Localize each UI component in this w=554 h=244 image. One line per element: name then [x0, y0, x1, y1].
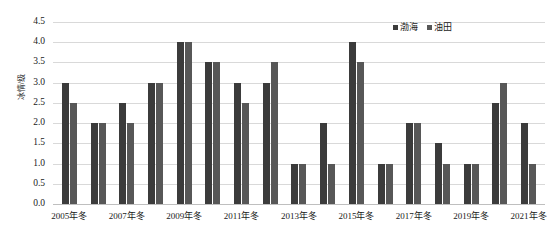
bar	[99, 123, 106, 204]
x-axis-tick-label: 2011年冬	[224, 211, 260, 222]
y-axis-tick-label: 2.5	[33, 98, 45, 108]
bar	[472, 164, 479, 204]
bar	[406, 123, 413, 204]
bar	[271, 62, 278, 204]
y-axis-tick-label: 0.5	[33, 179, 45, 189]
bar	[492, 103, 499, 204]
y-axis-tick-label: 1.5	[33, 139, 45, 149]
bar-group	[55, 22, 84, 204]
bar	[205, 62, 212, 204]
y-axis-tick-labels: 0.00.51.01.52.02.53.03.54.04.5	[0, 22, 49, 204]
legend-entry[interactable]: 渤海	[393, 23, 418, 32]
bar-group	[399, 22, 428, 204]
bar-group	[199, 22, 228, 204]
bar	[70, 103, 77, 204]
x-axis-tick-slot: 2007年冬	[112, 208, 141, 232]
bar	[148, 83, 155, 204]
bar-group	[170, 22, 199, 204]
y-axis-tick-label: 4.0	[33, 37, 45, 47]
x-axis-tick-slot: 2009年冬	[170, 208, 199, 232]
legend-swatch-icon	[393, 25, 398, 30]
bar-group	[141, 22, 170, 204]
bar	[464, 164, 471, 204]
x-axis-tick-slot: 2005年冬	[55, 208, 84, 232]
y-axis-tick-label: 4.5	[33, 17, 45, 27]
bar	[242, 103, 249, 204]
plot-area	[53, 22, 545, 204]
bar	[213, 62, 220, 204]
bar	[529, 164, 536, 204]
bars-layer	[53, 22, 545, 204]
bar-group	[84, 22, 113, 204]
bar	[291, 164, 298, 204]
bar-group	[112, 22, 141, 204]
bar	[320, 123, 327, 204]
x-axis-tick-slot: 2011年冬	[227, 208, 256, 232]
x-axis-tick-label: 2017年冬	[396, 211, 432, 222]
x-axis-tick-slot: 2013年冬	[285, 208, 314, 232]
bar	[357, 62, 364, 204]
bar	[234, 83, 241, 204]
y-axis-tick-label: 1.0	[33, 159, 45, 169]
bar	[386, 164, 393, 204]
bar	[156, 83, 163, 204]
bar	[127, 123, 134, 204]
bar	[177, 42, 184, 204]
legend-entry[interactable]: 油田	[427, 23, 452, 32]
x-axis-tick-slot: 2017年冬	[399, 208, 428, 232]
bar	[185, 42, 192, 204]
gridline	[53, 204, 545, 205]
chart-legend: 渤海油田	[393, 23, 452, 32]
bar	[414, 123, 421, 204]
x-axis-tick-label: 2009年冬	[166, 211, 202, 222]
bar	[521, 123, 528, 204]
bar-group	[371, 22, 400, 204]
x-axis-tick-label: 2013年冬	[281, 211, 317, 222]
legend-swatch-icon	[427, 25, 432, 30]
bar	[378, 164, 385, 204]
bar	[349, 42, 356, 204]
bar-group	[457, 22, 486, 204]
bar-group	[342, 22, 371, 204]
bar	[91, 123, 98, 204]
bar	[263, 83, 270, 204]
x-axis-tick-slot: 2019年冬	[457, 208, 486, 232]
bar	[443, 164, 450, 204]
bar	[328, 164, 335, 204]
bar-group	[227, 22, 256, 204]
bar-group	[486, 22, 515, 204]
y-axis-tick-label: 3.5	[33, 58, 45, 68]
x-axis-tick-label: 2005年冬	[51, 211, 87, 222]
chart-container: 冰情/级 0.00.51.01.52.02.53.03.54.04.5 2005…	[0, 0, 554, 244]
bar	[435, 143, 442, 204]
x-axis-tick-label: 2019年冬	[453, 211, 489, 222]
y-axis-tick-label: 3.0	[33, 78, 45, 88]
x-axis-tick-label: 2021年冬	[511, 211, 547, 222]
bar	[62, 83, 69, 204]
y-axis-tick-label: 0.0	[33, 199, 45, 209]
bar-group	[514, 22, 543, 204]
bar-group	[313, 22, 342, 204]
y-axis-tick-label: 2.0	[33, 118, 45, 128]
bar-group	[428, 22, 457, 204]
x-axis-tick-slot: 2021年冬	[514, 208, 543, 232]
x-axis-tick-label: 2007年冬	[109, 211, 145, 222]
legend-label: 渤海	[400, 23, 418, 32]
bar	[119, 103, 126, 204]
x-axis-tick-labels: 2005年冬2007年冬2009年冬2011年冬2013年冬2015年冬2017…	[53, 208, 545, 232]
x-axis-tick-label: 2015年冬	[338, 211, 374, 222]
x-axis-tick-slot: 2015年冬	[342, 208, 371, 232]
bar-group	[256, 22, 285, 204]
bar-group	[285, 22, 314, 204]
legend-label: 油田	[434, 23, 452, 32]
bar	[500, 83, 507, 204]
bar	[299, 164, 306, 204]
